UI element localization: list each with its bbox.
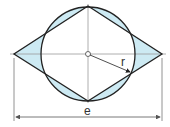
geometry-diagram: r e (0, 0, 170, 127)
radius-label: r (121, 55, 125, 69)
width-label: e (84, 104, 91, 118)
center-point (86, 52, 91, 57)
